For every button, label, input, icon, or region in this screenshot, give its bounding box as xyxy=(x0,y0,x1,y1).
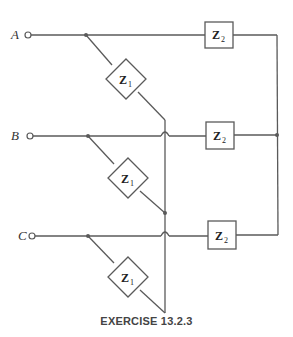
z1-c-sub: 1 xyxy=(130,278,134,287)
phase-a: A Z 1 Z 2 xyxy=(10,22,277,120)
wire-a-z1-out xyxy=(138,92,165,120)
z1-b-sub: 1 xyxy=(130,179,134,188)
z2-a-sub: 2 xyxy=(221,35,225,44)
z1-a-sub: 1 xyxy=(128,80,132,89)
terminal-c xyxy=(29,233,35,239)
phase-b: B Z 1 Z 2 xyxy=(11,122,279,215)
wire-c-z1-in xyxy=(88,236,114,263)
terminal-a xyxy=(25,32,31,38)
z2-b-sub: 2 xyxy=(222,136,226,145)
star-bus-vertical xyxy=(277,35,278,235)
z2-c-sub: 2 xyxy=(224,236,228,245)
wire-c-z1-out xyxy=(140,290,165,313)
terminal-label-b: B xyxy=(11,128,19,143)
z2-c-label: Z xyxy=(215,229,223,243)
wire-b-z1-in xyxy=(88,136,114,164)
z1-c-label: Z xyxy=(121,271,129,285)
terminal-b xyxy=(27,133,33,139)
z1-a-label: Z xyxy=(119,73,127,87)
phase-c: C Z 1 Z 2 xyxy=(18,221,278,313)
terminal-label-c: C xyxy=(18,228,27,243)
circuit-diagram: A Z 1 Z 2 B Z 1 Z 2 C xyxy=(0,0,293,337)
z2-a-label: Z xyxy=(212,28,220,42)
z1-b-label: Z xyxy=(121,172,129,186)
figure-caption: EXERCISE 13.2.3 xyxy=(0,315,293,327)
wire-a-z1-in xyxy=(86,35,112,65)
z2-b-label: Z xyxy=(213,129,221,143)
wire-b-z1-out xyxy=(140,191,165,213)
terminal-label-a: A xyxy=(10,27,19,42)
